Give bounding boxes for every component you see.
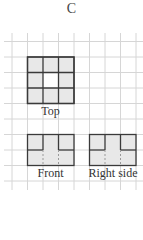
top-view-label: Top [27, 104, 74, 118]
top-view [28, 57, 75, 104]
right-side-view [90, 135, 137, 166]
front-view-label: Front [27, 166, 74, 180]
right-side-view-label: Right side [86, 166, 140, 180]
front-view [28, 135, 75, 166]
